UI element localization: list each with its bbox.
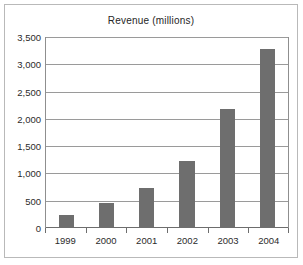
- bar-1999[interactable]: [59, 215, 74, 228]
- bar-2001[interactable]: [139, 188, 154, 228]
- x-axis-tick: [167, 228, 168, 233]
- y-axis-tick-labels: 05001,0001,5002,0002,5003,0003,500: [5, 37, 41, 228]
- bar-slot: [248, 37, 288, 228]
- chart-title: Revenue (millions): [5, 15, 297, 26]
- y-axis-tick-label: 1,000: [3, 168, 41, 179]
- x-axis-tick-label-2003: 2003: [208, 235, 249, 246]
- x-axis-tick: [86, 228, 87, 233]
- y-axis-tick-label: 2,000: [3, 113, 41, 124]
- x-axis-ticks: [45, 228, 289, 233]
- x-axis-tick-label-2002: 2002: [167, 235, 208, 246]
- x-axis-tick-label-2001: 2001: [126, 235, 167, 246]
- x-axis-tick-label-2004: 2004: [248, 235, 289, 246]
- y-axis-tick-label: 2,500: [3, 86, 41, 97]
- x-axis-tick: [208, 228, 209, 233]
- bar-2002[interactable]: [179, 161, 194, 228]
- x-axis-tick: [45, 228, 46, 233]
- y-axis-tick-label: 1,500: [3, 141, 41, 152]
- y-axis-tick-label: 0: [3, 223, 41, 234]
- x-axis-tick-label-1999: 1999: [45, 235, 86, 246]
- bar-slot: [127, 37, 167, 228]
- bar-slot: [167, 37, 207, 228]
- x-axis-tick: [126, 228, 127, 233]
- y-axis-tick-label: 3,000: [3, 59, 41, 70]
- x-axis-tick-label-2000: 2000: [86, 235, 127, 246]
- bar-2003[interactable]: [220, 109, 235, 228]
- x-axis-tick: [288, 228, 289, 233]
- bar-slot: [207, 37, 247, 228]
- bar-2004[interactable]: [260, 49, 275, 228]
- chart-figure: Revenue (millions) 05001,0001,5002,0002,…: [4, 4, 298, 258]
- x-axis-tick-labels: 199920002001200220032004: [45, 235, 289, 246]
- x-axis-tick: [248, 228, 249, 233]
- y-axis-tick-label: 3,500: [3, 32, 41, 43]
- bar-slot: [46, 37, 86, 228]
- bar-slot: [86, 37, 126, 228]
- plot-area: [45, 37, 289, 228]
- bar-series: [46, 37, 288, 228]
- bar-2000[interactable]: [99, 203, 114, 228]
- y-axis-tick-label: 500: [3, 195, 41, 206]
